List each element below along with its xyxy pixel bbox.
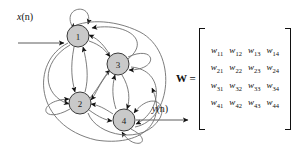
bracket-left-icon	[199, 28, 205, 130]
node-4-label: 4	[122, 116, 127, 126]
matrix-equals: =	[190, 72, 196, 84]
output-signal-label: y(n)	[152, 103, 168, 114]
matrix-cell-subscript: 43	[254, 102, 261, 109]
matrix-cell-subscript: 24	[272, 67, 279, 74]
matrix-brackets: w11w12w13w14w21w22w23w24w31w32w33w34w41w…	[199, 28, 291, 128]
matrix-cell: w24	[263, 60, 282, 77]
matrix-cell: w14	[263, 43, 282, 60]
edge-layer	[18, 9, 188, 143]
node-1-label: 1	[76, 32, 81, 42]
matrix-cell: w11	[208, 43, 227, 60]
matrix-cell: w32	[226, 78, 245, 95]
weight-matrix-table: w11w12w13w14w21w22w23w24w31w32w33w34w41w…	[208, 43, 282, 112]
node-4[interactable]: 4	[113, 109, 135, 131]
node-layer: 1 2 3 4	[67, 25, 135, 131]
input-signal-label: x(n)	[17, 11, 33, 22]
matrix-cell-subscript: 13	[254, 50, 261, 57]
matrix-row: w21w22w23w24	[208, 60, 282, 77]
edge-1-to-3	[89, 41, 110, 57]
matrix-cell: w22	[226, 60, 245, 77]
matrix-cell-subscript: 31	[217, 84, 224, 91]
matrix-cell: w41	[208, 95, 227, 112]
matrix-cell-subscript: 14	[272, 50, 279, 57]
node-3[interactable]: 3	[107, 53, 129, 75]
self-loop-1	[70, 9, 89, 26]
matrix-name-label: W =	[176, 72, 196, 84]
matrix-row: w41w42w43w44	[208, 95, 282, 112]
matrix-name: W	[176, 72, 187, 84]
matrix-cell-subscript: 11	[217, 50, 223, 57]
input-argument: (n)	[21, 11, 33, 22]
matrix-row: w31w32w33w34	[208, 78, 282, 95]
edge-3-to-4-outer	[131, 67, 156, 124]
bracket-right-icon	[285, 28, 291, 130]
edge-4-to-2	[91, 104, 113, 114]
matrix-cell: w23	[245, 60, 264, 77]
node-1[interactable]: 1	[67, 25, 89, 47]
matrix-row: w11w12w13w14	[208, 43, 282, 60]
matrix-cell: w43	[245, 95, 264, 112]
node-3-label: 3	[116, 60, 121, 70]
matrix-cell: w33	[245, 78, 264, 95]
weight-matrix-block: W = w11w12w13w14w21w22w23w24w31w32w33w34…	[176, 20, 291, 135]
matrix-cell-subscript: 23	[254, 67, 261, 74]
matrix-cell-subscript: 44	[272, 102, 279, 109]
matrix-cell: w13	[245, 43, 264, 60]
edge-4-to-3	[113, 75, 116, 109]
edge-1-to-2-outer	[48, 45, 70, 104]
edge-2-to-1	[83, 47, 87, 92]
matrix-cell: w34	[263, 78, 282, 95]
output-argument: (n)	[156, 103, 168, 114]
matrix-cell: w44	[263, 95, 282, 112]
matrix-cell-subscript: 34	[272, 84, 279, 91]
edge-3-to-4	[122, 75, 129, 109]
matrix-cell: w12	[226, 43, 245, 60]
matrix-cell-subscript: 12	[235, 50, 242, 57]
matrix-cell: w31	[208, 78, 227, 95]
matrix-cell-subscript: 22	[235, 67, 242, 74]
matrix-cell-subscript: 21	[217, 67, 224, 74]
matrix-cell-subscript: 33	[254, 84, 261, 91]
matrix-cell: w42	[226, 95, 245, 112]
node-2[interactable]: 2	[69, 92, 91, 114]
matrix-cell: w21	[208, 60, 227, 77]
figure-container: 1 2 3 4 x(n) y(n) W =	[0, 0, 301, 155]
matrix-body: w11w12w13w14w21w22w23w24w31w32w33w34w41w…	[208, 43, 282, 112]
edge-1-to-4-outer	[44, 43, 157, 141]
edge-3-to-2	[91, 72, 109, 100]
matrix-cell-subscript: 42	[235, 102, 242, 109]
matrix-cell-subscript: 41	[217, 102, 224, 109]
edge-1-to-2	[72, 47, 75, 92]
edge-3-to-1	[89, 35, 110, 55]
node-2-label: 2	[78, 99, 83, 109]
matrix-cell-subscript: 32	[235, 84, 242, 91]
